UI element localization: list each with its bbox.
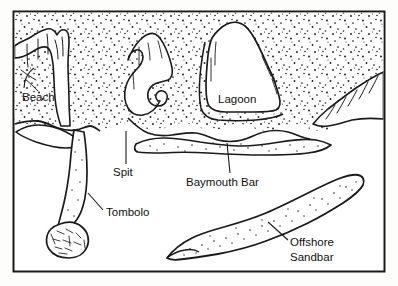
tombolo-island bbox=[47, 222, 89, 258]
diagram-canvas: Beach Spit Lagoon Baymouth Bar Tombolo O… bbox=[0, 0, 398, 286]
label-offshore-sandbar-line2: Sandbar bbox=[290, 251, 334, 263]
label-beach: Beach bbox=[22, 91, 55, 103]
label-tombolo: Tombolo bbox=[106, 206, 149, 218]
label-offshore-sandbar-line1: Offshore bbox=[290, 236, 334, 248]
label-spit: Spit bbox=[113, 166, 134, 178]
coastal-landforms-figure: Beach Spit Lagoon Baymouth Bar Tombolo O… bbox=[0, 0, 398, 286]
label-lagoon: Lagoon bbox=[218, 93, 256, 105]
label-baymouth-bar: Baymouth Bar bbox=[186, 176, 259, 188]
